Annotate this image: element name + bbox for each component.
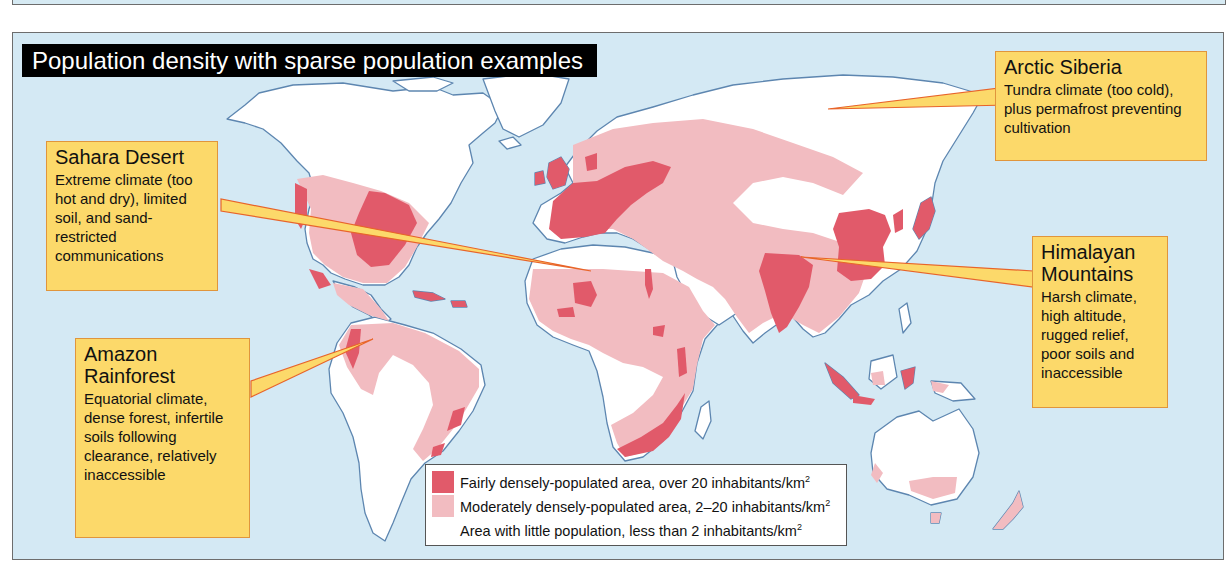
legend-item-dense: Fairly densely-populated area, over 20 i… — [432, 470, 840, 494]
map-title: Population density with sparse populatio… — [22, 44, 597, 77]
philippines — [899, 303, 911, 333]
legend-label-superscript: 2 — [805, 474, 810, 484]
callout-title: Himalayan Mountains — [1041, 241, 1159, 285]
callout-body: Extreme climate (too hot and dry), limit… — [55, 170, 209, 265]
canadian-arctic-islands — [393, 77, 453, 91]
callout-arctic-siberia: Arctic Siberia Tundra climate (too cold)… — [995, 51, 1207, 161]
legend-item-sparse: Area with little population, less than 2… — [432, 518, 840, 542]
map-frame: Population density with sparse populatio… — [12, 32, 1224, 560]
greenland — [483, 73, 569, 137]
callout-title: Amazon Rainforest — [84, 343, 241, 387]
previous-figure-frame-edge — [12, 0, 1226, 5]
iceland — [499, 137, 521, 149]
legend-swatch-moderate — [432, 495, 454, 517]
madagascar — [695, 401, 711, 439]
map-legend: Fairly densely-populated area, over 20 i… — [425, 464, 847, 546]
callout-himalayan-mountains: Himalayan Mountains Harsh climate, high … — [1032, 236, 1168, 408]
legend-item-moderate: Moderately densely-populated area, 2–20 … — [432, 494, 840, 518]
callout-title: Sahara Desert — [55, 146, 209, 168]
legend-swatch-dense — [432, 471, 454, 493]
callout-body: Tundra climate (too cold), plus permafro… — [1004, 80, 1198, 137]
legend-label: Moderately densely-populated area, 2–20 … — [460, 498, 825, 514]
legend-swatch-sparse — [432, 519, 454, 541]
callout-body: Equatorial climate, dense forest, infert… — [84, 389, 241, 484]
callout-body: Harsh climate, high altitude, rugged rel… — [1041, 287, 1159, 382]
legend-label-superscript: 2 — [825, 498, 830, 508]
callout-sahara-desert: Sahara Desert Extreme climate (too hot a… — [46, 141, 218, 291]
callout-title: Arctic Siberia — [1004, 56, 1198, 78]
callout-amazon-rainforest: Amazon Rainforest Equatorial climate, de… — [75, 338, 250, 538]
legend-label: Fairly densely-populated area, over 20 i… — [460, 474, 805, 490]
legend-label-superscript: 2 — [797, 522, 802, 532]
legend-label: Area with little population, less than 2… — [460, 522, 797, 538]
